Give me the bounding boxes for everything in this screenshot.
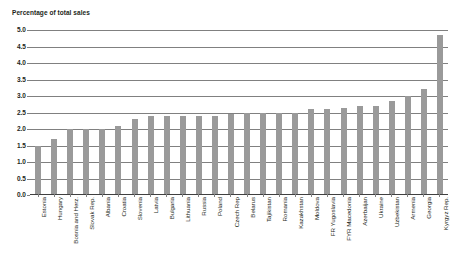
- bar: [35, 146, 41, 196]
- x-axis-tick-mark: [54, 194, 55, 197]
- bar: [51, 139, 57, 195]
- x-axis-tick-mark: [166, 194, 167, 197]
- bar: [421, 89, 427, 195]
- x-axis-tick-label: Croatia: [121, 197, 127, 273]
- y-axis-tick-mark: [27, 195, 30, 196]
- plot-area: 5.04.54.03.53.02.52.01.51.00.50.0: [30, 30, 448, 195]
- x-axis-tick-mark: [263, 194, 264, 197]
- x-axis-tick-mark: [375, 194, 376, 197]
- bar: [373, 106, 379, 195]
- x-axis-labels: EstoniaHungaryBosnia and Herz.Slovak Rep…: [30, 197, 448, 273]
- y-axis-tick-label: 4.0: [17, 60, 26, 67]
- x-axis-tick-label: FR Yugoslavia: [330, 197, 336, 273]
- x-axis-tick-label: Ukraine: [378, 197, 384, 273]
- x-axis-line: [30, 194, 448, 195]
- bar: [132, 119, 138, 195]
- x-axis-tick-label: Armenia: [410, 197, 416, 273]
- x-axis-tick-mark: [134, 194, 135, 197]
- x-axis-tick-mark: [118, 194, 119, 197]
- y-axis-tick-label: 2.5: [17, 109, 26, 116]
- x-axis-tick-label: Slovak Rep.: [89, 197, 95, 273]
- x-axis-tick-label: Lithuania: [185, 197, 191, 273]
- y-axis-tick-label: 1.5: [17, 142, 26, 149]
- bar: [212, 116, 218, 195]
- x-axis-tick-mark: [359, 194, 360, 197]
- bar: [148, 116, 154, 195]
- bar: [164, 116, 170, 195]
- bar: [180, 116, 186, 195]
- x-axis-tick-label: Czech Rep: [234, 197, 240, 273]
- x-axis-tick-mark: [150, 194, 151, 197]
- x-axis-tick-label: Estonia: [41, 197, 47, 273]
- x-axis-tick-mark: [70, 194, 71, 197]
- y-axis-tick-label: 2.0: [17, 126, 26, 133]
- bar: [67, 129, 73, 195]
- x-axis-tick-mark: [311, 194, 312, 197]
- bar: [260, 113, 266, 196]
- y-axis-tick-label: 1.0: [17, 159, 26, 166]
- x-axis-tick-label: Tajikistan: [266, 197, 272, 273]
- bar: [324, 109, 330, 195]
- bar: [389, 101, 395, 195]
- bar: [357, 106, 363, 195]
- x-axis-tick-mark: [38, 194, 39, 197]
- x-axis-tick-mark: [86, 194, 87, 197]
- x-axis-tick-label: Romania: [282, 197, 288, 273]
- x-axis-tick-label: Uzbekistan: [394, 197, 400, 273]
- y-axis-tick-label: 3.0: [17, 93, 26, 100]
- x-axis-tick-label: Kyrgyz Rep.: [443, 197, 449, 273]
- x-axis-tick-mark: [230, 194, 231, 197]
- x-axis-tick-label: FYR Macedonia: [346, 197, 352, 273]
- x-axis-tick-mark: [295, 194, 296, 197]
- x-axis-tick-label: Moldova: [314, 197, 320, 273]
- x-axis-tick-label: Bosnia and Herz.: [73, 197, 79, 273]
- x-axis-tick-mark: [439, 194, 440, 197]
- x-axis-tick-mark: [247, 194, 248, 197]
- x-axis-tick-mark: [327, 194, 328, 197]
- y-axis-tick-label: 0.0: [17, 192, 26, 199]
- x-axis-tick-mark: [279, 194, 280, 197]
- x-axis-tick-label: Azerbaijan: [362, 197, 368, 273]
- bar: [115, 126, 121, 195]
- bar: [228, 114, 234, 195]
- x-axis-tick-label: Kazakhstan: [298, 197, 304, 273]
- bar: [99, 129, 105, 195]
- x-axis-tick-label: Albania: [105, 197, 111, 273]
- x-axis-tick-label: Latvia: [153, 197, 159, 273]
- bar: [244, 113, 250, 196]
- y-axis-tick-label: 0.5: [17, 175, 26, 182]
- x-axis-tick-label: Georgia: [426, 197, 432, 273]
- x-axis-tick-label: Russia: [201, 197, 207, 273]
- x-axis-tick-label: Belarus: [250, 197, 256, 273]
- y-axis-tick-label: 4.5: [17, 43, 26, 50]
- bar: [83, 129, 89, 195]
- x-axis-tick-mark: [102, 194, 103, 197]
- bar-series: [30, 30, 448, 195]
- y-axis-unit-label: Percentage of total sales: [12, 9, 90, 16]
- x-axis-tick-mark: [343, 194, 344, 197]
- x-axis-tick-label: Slovenia: [137, 197, 143, 273]
- x-axis-tick-label: Bulgaria: [169, 197, 175, 273]
- bar: [405, 96, 411, 195]
- y-axis-tick-label: 3.5: [17, 76, 26, 83]
- bar: [341, 108, 347, 195]
- bar: [196, 116, 202, 195]
- bar: [308, 109, 314, 195]
- x-axis-tick-label: Hungary: [57, 197, 63, 273]
- bar: [276, 113, 282, 196]
- y-axis-tick-label: 5.0: [17, 27, 26, 34]
- x-axis-tick-label: Poland: [217, 197, 223, 273]
- bar: [292, 113, 298, 196]
- bar-chart: Percentage of total sales 5.04.54.03.53.…: [0, 0, 453, 273]
- bar: [437, 35, 443, 195]
